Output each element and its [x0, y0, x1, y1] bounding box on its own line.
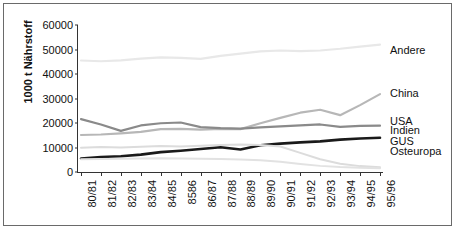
y-tick-mark [75, 25, 78, 26]
x-tick-mark [280, 172, 281, 176]
y-tick-mark [75, 74, 78, 75]
x-tick-label: 95/96 [385, 180, 397, 208]
x-tick-label: 82/83 [126, 180, 138, 208]
x-tick-label: 87/88 [226, 180, 238, 208]
x-tick-mark [121, 172, 122, 176]
x-axis-line [77, 172, 383, 173]
y-tick-label: 30000 [42, 93, 73, 105]
x-tick-mark [360, 172, 361, 176]
legend-label-china: China [390, 87, 419, 99]
x-tick-label: 91/92 [305, 180, 317, 208]
x-tick-label: 8586 [186, 180, 198, 204]
x-tick-mark [201, 172, 202, 176]
y-tick-mark [75, 98, 78, 99]
legend-label-andere: Andere [390, 44, 425, 56]
y-axis-title: 1000 t Nährstoff [22, 0, 34, 132]
chart-frame: 1000 t Nährstoff 01000020000300004000050… [3, 3, 452, 226]
y-tick-mark [75, 49, 78, 50]
line-series-andere [81, 45, 380, 62]
y-tick-label: 10000 [42, 142, 73, 154]
y-tick-mark [75, 147, 78, 148]
x-tick-label: 83/84 [146, 180, 158, 208]
x-tick-label: 84/85 [166, 180, 178, 208]
x-tick-mark [340, 172, 341, 176]
y-tick-label: 0 [67, 166, 73, 178]
x-tick-label: 90/91 [285, 180, 297, 208]
y-tick-label: 60000 [42, 19, 73, 31]
x-tick-mark [380, 172, 381, 176]
x-tick-mark [320, 172, 321, 176]
line-series-usa [81, 119, 380, 131]
x-tick-label: 94/95 [365, 180, 377, 208]
x-tick-mark [101, 172, 102, 176]
x-tick-label: 89/90 [265, 180, 277, 208]
y-tick-mark [75, 172, 78, 173]
legend-label-osteuropa: Osteuropa [390, 145, 441, 157]
x-tick-label: 88/89 [245, 180, 257, 208]
x-tick-mark [161, 172, 162, 176]
x-tick-mark [221, 172, 222, 176]
x-tick-mark [240, 172, 241, 176]
x-tick-mark [300, 172, 301, 176]
x-tick-mark [81, 172, 82, 176]
series-lines [78, 25, 383, 172]
x-tick-label: 93/94 [345, 180, 357, 208]
x-tick-mark [181, 172, 182, 176]
x-tick-label: 81/82 [106, 180, 118, 208]
y-tick-label: 40000 [42, 68, 73, 80]
x-tick-label: 80/81 [86, 180, 98, 208]
x-tick-label: 92/93 [325, 180, 337, 208]
x-tick-mark [141, 172, 142, 176]
plot-area: 010000200003000040000500006000080/8181/8… [78, 25, 383, 172]
y-tick-label: 50000 [42, 44, 73, 56]
y-tick-label: 20000 [42, 117, 73, 129]
x-tick-label: 86/87 [206, 180, 218, 208]
y-tick-mark [75, 123, 78, 124]
x-tick-mark [260, 172, 261, 176]
